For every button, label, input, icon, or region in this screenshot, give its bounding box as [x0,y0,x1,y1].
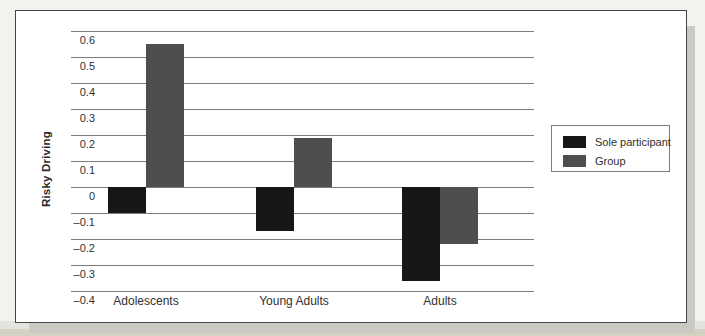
y-tick-label-0.6: 0.6 [71,34,95,46]
legend-label-sole-participant: Sole participant [595,136,671,148]
legend-label-group: Group [595,155,626,167]
page-bottom-strip [0,329,705,336]
gridline-–0.3 [71,265,534,266]
y-tick-label-–0.1: –0.1 [71,216,95,228]
x-category-label-adults: Adults [380,294,500,308]
y-axis-title: Risky Driving [40,99,54,239]
gridline-0.5 [71,57,534,58]
bar-group-adults [440,187,478,244]
gridline-–0.4 [71,291,534,292]
legend-item-group: Group [563,154,669,167]
legend-swatch-sole-participant [563,136,586,148]
bar-group-adolescents [146,44,184,187]
gridline-0.4 [71,83,534,84]
y-tick-label-0.3: 0.3 [71,112,95,124]
y-tick-label-–0.2: –0.2 [71,242,95,254]
y-tick-label-0: 0 [71,190,95,202]
bar-sole-participant-adolescents [108,187,146,213]
gridline-0.3 [71,109,534,110]
y-tick-label-0.1: 0.1 [71,164,95,176]
x-category-label-young-adults: Young Adults [234,294,354,308]
plot-area: 0.60.50.40.30.20.10–0.1–0.2–0.3–0.4Adole… [71,31,534,291]
gridline-0.2 [71,135,534,136]
gridline-0.6 [71,31,534,32]
y-tick-label-0.2: 0.2 [71,138,95,150]
y-tick-label-0.4: 0.4 [71,86,95,98]
bar-group-young-adults [294,138,332,187]
legend-swatch-group [563,155,586,167]
legend-item-sole-participant: Sole participant [563,135,669,148]
y-tick-label-–0.3: –0.3 [71,268,95,280]
scanned-figure-page: Risky Driving 0.60.50.40.30.20.10–0.1–0.… [0,0,705,336]
x-category-label-adolescents: Adolescents [86,294,206,308]
bar-sole-participant-young-adults [256,187,294,231]
figure-frame: Risky Driving 0.60.50.40.30.20.10–0.1–0.… [15,10,687,323]
legend: Sole participant Group [551,125,670,172]
y-tick-label-0.5: 0.5 [71,60,95,72]
bar-sole-participant-adults [402,187,440,281]
